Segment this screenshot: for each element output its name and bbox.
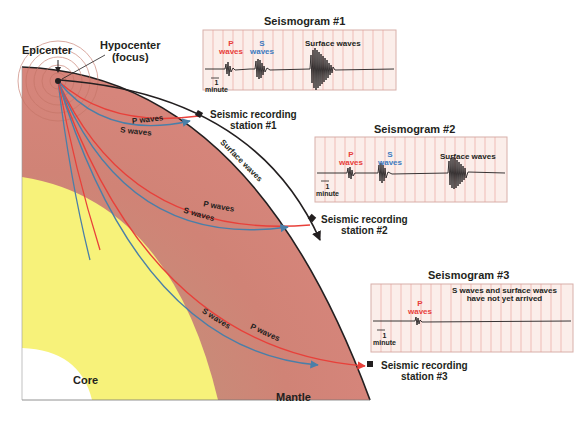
seismogram-1-s-label: Swaves <box>250 40 274 57</box>
seismogram-1-scale: 1minute <box>205 79 228 94</box>
station-1-label: Seismic recording station #1 <box>210 110 297 131</box>
seismogram-1-p-label: Pwaves <box>219 40 243 57</box>
hypocenter-label: Hypocenter (focus) <box>100 40 161 63</box>
hypocenter-marker <box>55 78 61 84</box>
seismogram-2-p-label: Pwaves <box>339 151 363 168</box>
seismogram-3-title: Seismogram #3 <box>428 270 509 282</box>
seismogram-2-chart <box>315 137 507 202</box>
mantle-label: Mantle <box>276 392 311 404</box>
station-3-marker <box>367 361 373 367</box>
core-label: Core <box>73 375 98 387</box>
epicenter-label: Epicenter <box>22 45 72 57</box>
seismogram-1-surface-label: Surface waves <box>305 40 361 48</box>
station-3-label: Seismic recording station #3 <box>381 361 468 382</box>
seismogram-2-surface-label: Surface waves <box>440 153 496 161</box>
seismogram-3-scale: 1minute <box>373 332 396 347</box>
seismogram-2-scale: 1minute <box>316 183 339 198</box>
seismogram-3-p-label: Pwaves <box>408 300 432 317</box>
station-2-marker <box>308 214 316 222</box>
seismogram-2-title: Seismogram #2 <box>374 124 455 136</box>
seismogram-2-s-label: Swaves <box>378 151 402 168</box>
seismogram-1-title: Seismogram #1 <box>264 16 345 28</box>
seismic-wave-diagram: Epicenter Hypocenter (focus) P waves S w… <box>0 0 583 441</box>
station-2-label: Seismic recording station #2 <box>321 215 408 236</box>
seismogram-3-note: S waves and surface waveshave not yet ar… <box>452 287 557 304</box>
